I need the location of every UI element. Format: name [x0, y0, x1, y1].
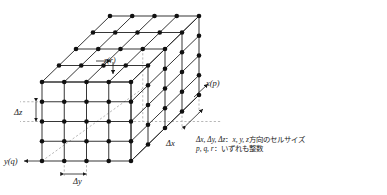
lattice-node	[197, 14, 202, 19]
figure-3d-cell-grid: z(r) x(p) y(q) Δz Δy Δx Δx, Δy, Δz：x, y,…	[0, 0, 387, 195]
lattice-node	[129, 80, 134, 85]
lattice-node	[79, 63, 84, 68]
construction-dashed-lines	[20, 49, 221, 177]
lattice-node	[108, 14, 113, 19]
lattice-node	[146, 63, 151, 68]
lattice-node	[180, 89, 185, 94]
lattice-node	[84, 139, 89, 144]
lattice-node	[62, 159, 67, 164]
lattice-node	[62, 80, 67, 85]
legend-colon-2: ：	[214, 144, 221, 153]
lattice-node	[84, 80, 89, 85]
lattice-node	[180, 109, 185, 114]
y-axis-label: y(q)	[4, 157, 18, 166]
lattice-node	[74, 47, 79, 52]
lattice-node	[62, 119, 67, 124]
lattice-node	[84, 159, 89, 164]
lattice-node	[40, 80, 45, 85]
lattice-node	[163, 106, 168, 111]
lattice-node	[106, 119, 111, 124]
lattice-node	[129, 119, 134, 124]
legend-line-2: p, q, r：いずれも整数	[196, 145, 305, 154]
lattice-node	[146, 142, 151, 147]
lattice-node	[96, 47, 101, 52]
lattice-node	[40, 139, 45, 144]
lattice-node	[118, 47, 123, 52]
lattice-node	[106, 159, 111, 164]
lattice-node	[180, 50, 185, 55]
lattice-node	[129, 99, 134, 104]
lattice-node	[113, 30, 118, 35]
lattice-node	[84, 119, 89, 124]
legend-line2-symbols: p, q, r	[196, 144, 214, 153]
lattice-node	[62, 139, 67, 144]
lattice-node	[129, 159, 134, 164]
lattice-node	[197, 33, 202, 38]
lattice-node	[106, 139, 111, 144]
lattice-node	[91, 30, 96, 35]
delta-z-label: Δz	[14, 108, 22, 117]
lattice-node	[146, 122, 151, 127]
z-axis-label: z(r)	[104, 57, 116, 65]
lattice-node	[40, 99, 45, 104]
lattice-node	[40, 119, 45, 124]
lattice-node	[140, 47, 145, 52]
x-axis-label: x(p)	[206, 79, 220, 88]
lattice-node	[84, 99, 89, 104]
legend: Δx, Δy, Δz：x, y, z方向のセルサイズ p, q, r：いずれも整…	[196, 136, 305, 153]
grid-diagram-svg	[0, 0, 387, 195]
lattice-node	[163, 126, 168, 131]
lattice-node	[197, 53, 202, 58]
legend-line2-tail: いずれも整数	[221, 144, 263, 153]
dimension-arrows	[24, 61, 208, 174]
lattice-node	[130, 14, 135, 19]
lattice-node	[180, 30, 185, 35]
lattice-node	[174, 14, 179, 19]
lattice-node	[40, 159, 45, 164]
lattice-node	[123, 63, 128, 68]
lattice-node	[62, 99, 67, 104]
lattice-node	[106, 99, 111, 104]
lattice-node	[106, 80, 111, 85]
lattice-node	[163, 47, 168, 52]
lattice-node	[146, 83, 151, 88]
lattice-node	[152, 14, 157, 19]
lattice-node	[197, 73, 202, 78]
lattice-node	[163, 86, 168, 91]
lattice-node	[129, 139, 134, 144]
delta-y-label: Δy	[73, 177, 82, 186]
lattice-node	[157, 30, 162, 35]
lattice-lines	[42, 16, 199, 161]
lattice-node	[57, 63, 62, 68]
delta-x-label: Δx	[166, 139, 175, 148]
lattice-node	[146, 103, 151, 108]
lattice-node	[180, 70, 185, 75]
lattice-node	[135, 30, 140, 35]
lattice-node	[163, 66, 168, 71]
